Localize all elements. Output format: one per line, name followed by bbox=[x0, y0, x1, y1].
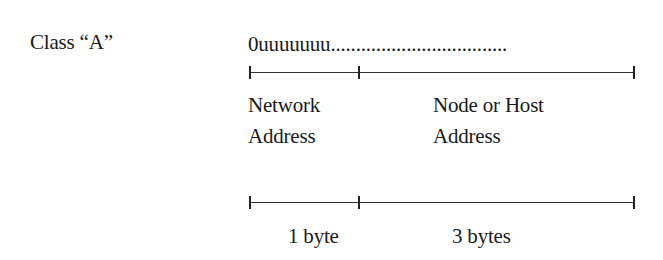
bracket-tick-divider bbox=[358, 196, 360, 209]
bracket-tick-end bbox=[633, 66, 635, 79]
bit-pattern-bits: 0uuuuuuu bbox=[248, 32, 330, 56]
bit-pattern-dots: ................................... bbox=[330, 32, 507, 56]
bracket-tick-end bbox=[633, 196, 635, 209]
bracket-tick-start bbox=[249, 196, 251, 209]
bracket-line bbox=[249, 72, 635, 73]
bit-pattern: 0uuuuuuu................................… bbox=[248, 32, 507, 56]
field-bracket-bottom bbox=[249, 196, 635, 208]
bracket-tick-divider bbox=[358, 66, 360, 79]
network-size-label: 1 byte bbox=[288, 224, 339, 248]
network-label-line2: Address bbox=[248, 124, 315, 148]
host-size-label: 3 bytes bbox=[452, 224, 511, 248]
bracket-line bbox=[249, 202, 635, 203]
network-label-line1: Network bbox=[248, 93, 320, 117]
class-label: Class “A” bbox=[30, 30, 113, 54]
bracket-tick-start bbox=[249, 66, 251, 79]
host-label-line1: Node or Host bbox=[433, 93, 544, 117]
host-label-line2: Address bbox=[433, 124, 500, 148]
field-bracket-top bbox=[249, 66, 635, 78]
